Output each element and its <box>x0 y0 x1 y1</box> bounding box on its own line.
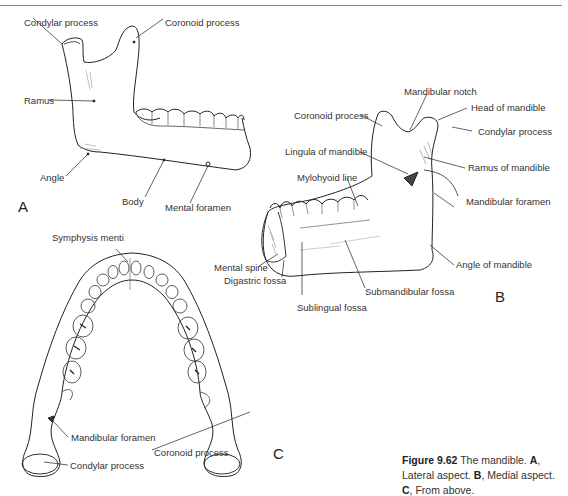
label-b-condylar-process: Condylar process <box>478 126 552 137</box>
label-a-body: Body <box>122 196 144 207</box>
label-a-angle: Angle <box>40 172 64 183</box>
label-b-ramus-of-mandible: Ramus of mandible <box>468 162 550 173</box>
caption-text-b: , Medial aspect. <box>481 469 555 481</box>
label-b-head-of-mandible: Head of mandible <box>471 102 545 113</box>
figure-caption: Figure 9.62 The mandible. A, Lateral asp… <box>402 453 562 496</box>
label-b-mandibular-notch: Mandibular notch <box>404 86 477 97</box>
label-a-condylar-process: Condylar process <box>24 17 98 28</box>
label-a-coronoid-process: Coronoid process <box>165 17 239 28</box>
label-c-condylar-process: Condylar process <box>70 460 144 471</box>
label-b-coronoid-process: Coronoid process <box>294 110 368 121</box>
caption-key-c: C <box>402 484 410 496</box>
label-b-mylohyoid-line: Mylohyoid line <box>297 172 357 183</box>
panel-letter-c: C <box>273 445 284 462</box>
label-b-digastric-fossa: Digastric fossa <box>224 275 286 286</box>
caption-intro: The mandible. <box>460 454 527 466</box>
label-b-mental-spine: Mental spine <box>214 262 268 273</box>
medial-view-drawing <box>259 94 472 295</box>
label-b-mandibular-foramen: Mandibular foramen <box>466 196 551 207</box>
label-c-symphysis-menti: Symphysis menti <box>52 232 124 243</box>
lateral-view-drawing <box>33 18 250 203</box>
label-a-mental-foramen: Mental foramen <box>165 202 231 213</box>
label-a-ramus: Ramus <box>24 95 54 106</box>
label-c-coronoid-process: Coronoid process <box>154 447 228 458</box>
panel-letter-b: B <box>495 288 505 305</box>
label-c-mandibular-foramen: Mandibular foramen <box>71 432 156 443</box>
label-b-lingula: Lingula of mandible <box>285 146 367 157</box>
panel-letter-a: A <box>18 198 28 215</box>
mandible-illustrations <box>0 0 568 496</box>
figure-number: Figure 9.62 <box>402 454 457 466</box>
label-b-sublingual-fossa: Sublingual fossa <box>297 302 367 313</box>
caption-text-c: , From above. <box>410 484 475 496</box>
label-b-angle-of-mandible: Angle of mandible <box>456 259 532 270</box>
label-b-submandibular-fossa: Submandibular fossa <box>365 286 454 297</box>
